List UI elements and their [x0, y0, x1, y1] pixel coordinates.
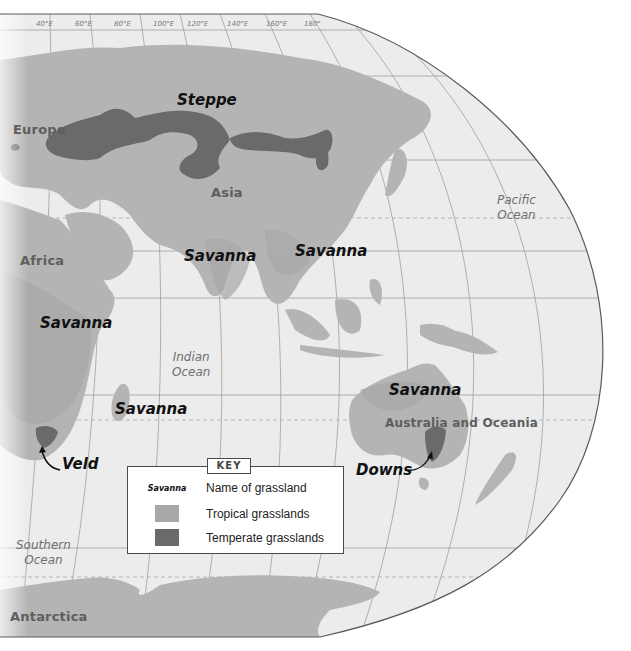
label-steppe: Steppe [177, 91, 237, 109]
label-asia: Asia [211, 185, 243, 200]
label-savanna-east-africa: Savanna [40, 314, 112, 332]
key-row-tropical: Tropical grasslands [128, 505, 310, 522]
label-australia-oceania: Australia and Oceania [385, 416, 538, 430]
key-label-temperate: Temperate grasslands [206, 531, 324, 545]
pacific-line2: Ocean [497, 208, 536, 223]
label-southern-ocean: Southern Ocean [16, 538, 71, 568]
key-swatch-wrap-temperate [128, 529, 206, 546]
key-title: KEY [207, 458, 251, 474]
lon-label-60e: 60°E [75, 20, 92, 28]
label-europe: Europe [13, 122, 66, 137]
key-label-tropical: Tropical grasslands [206, 507, 310, 521]
map-key: KEY Savanna Name of grassland Tropical g… [127, 466, 344, 554]
key-swatch-wrap-tropical [128, 505, 206, 522]
indian-line1: Indian [172, 350, 210, 365]
label-savanna-southeast-asia: Savanna [295, 242, 367, 260]
temperate-swatch [155, 529, 179, 546]
lon-label-100e: 100°E [153, 20, 174, 28]
southern-line1: Southern [16, 538, 71, 553]
indian-line2: Ocean [172, 365, 210, 380]
label-veld: Veld [62, 455, 99, 473]
pacific-line1: Pacific [497, 193, 536, 208]
label-savanna-australia: Savanna [389, 381, 461, 399]
lon-label-80e: 80°E [114, 20, 131, 28]
label-pacific-ocean: Pacific Ocean [497, 193, 536, 223]
key-row-temperate: Temperate grasslands [128, 529, 324, 546]
label-africa: Africa [20, 253, 64, 268]
label-downs: Downs [356, 461, 412, 479]
label-savanna-madagascar: Savanna [115, 400, 187, 418]
grasslands-map: 40°E 60°E 80°E 100°E 120°E 140°E 160°E 1… [0, 0, 631, 651]
lon-label-180: 180° [304, 20, 321, 28]
southern-line2: Ocean [16, 553, 71, 568]
key-label-name: Name of grassland [206, 481, 307, 495]
label-indian-ocean: Indian Ocean [172, 350, 210, 380]
label-savanna-india: Savanna [184, 247, 256, 265]
label-antarctica: Antarctica [10, 609, 88, 624]
tropical-swatch [155, 505, 179, 522]
lon-label-140e: 140°E [227, 20, 248, 28]
lon-label-160e: 160°E [266, 20, 287, 28]
key-sample-savanna: Savanna [128, 484, 206, 493]
lon-label-40e: 40°E [36, 20, 53, 28]
lon-label-120e: 120°E [187, 20, 208, 28]
key-row-name: Savanna Name of grassland [128, 481, 307, 495]
